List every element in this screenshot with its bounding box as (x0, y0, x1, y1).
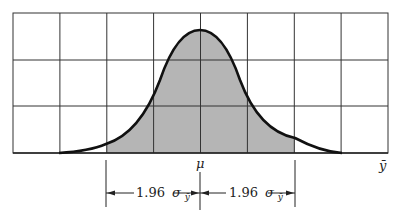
grid (13, 13, 388, 153)
mean-label: μ (196, 156, 204, 171)
right-interval-label: 1.96 σ ȳ (229, 183, 284, 202)
left-interval-label: 1.96 σ ȳ (136, 183, 191, 202)
axis-label: ȳ (378, 158, 387, 173)
normal-curve-diagram: μ ȳ 1.96 σ ȳ 1.96 σ ȳ (0, 0, 406, 219)
